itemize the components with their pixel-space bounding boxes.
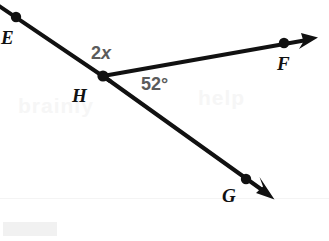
- angle-label-FHG: 52°: [141, 75, 168, 93]
- point-label-G: G: [222, 186, 236, 205]
- point-F-dot: [279, 38, 289, 48]
- angle-expr-variable: x: [101, 43, 111, 63]
- angle-expr-coefficient: 2: [91, 43, 101, 63]
- point-label-F: F: [277, 54, 290, 73]
- point-label-H: H: [72, 86, 87, 105]
- point-E-dot: [11, 12, 21, 22]
- figure-canvas: brainly help E H F G 2x 52°: [0, 0, 329, 241]
- angle-label-EHF: 2x: [91, 44, 111, 62]
- point-H-dot: [97, 70, 108, 81]
- point-G-dot: [241, 174, 251, 184]
- angle-diagram-svg: [0, 0, 329, 241]
- point-label-E: E: [1, 28, 14, 47]
- ray-HG-line: [103, 76, 265, 192]
